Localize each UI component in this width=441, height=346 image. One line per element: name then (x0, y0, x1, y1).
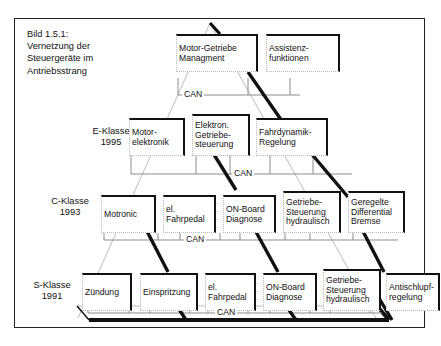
node-motorelektronik[interactable]: Motor- elektronik (129, 118, 185, 156)
connector-1 (248, 72, 284, 124)
node-elektron-getriebesteuerung[interactable]: Elektron. Getriebe- steuerung (192, 114, 250, 156)
node-motor-getriebe-managment[interactable]: Motor-Getriebe Managment (176, 34, 258, 72)
node-label: Fahrdynamik- Regelung (257, 128, 326, 147)
node-label: Einspritzung (141, 288, 196, 298)
node-getriebesteuerung-hydraulisch-c[interactable]: Getriebe- Steuerung hydraulisch (283, 191, 341, 233)
node-einspritzung[interactable]: Einspritzung (140, 273, 198, 311)
node-label: Antischlupf- regelung (387, 283, 438, 302)
node-label: Motronic (102, 210, 154, 220)
node-label: Getriebe- Steuerung hydraulisch (324, 276, 379, 305)
node-assistenzfunktionen[interactable]: Assistenz- funktionen (266, 34, 340, 72)
figure-caption: Bild 1.5.1: Vernetzung der Steuergeräte … (27, 28, 147, 77)
row-label-c-klasse: C-Klasse 1993 (42, 196, 98, 219)
row-label-s-klasse: S-Klasse 1991 (24, 280, 80, 303)
node-zuendung[interactable]: Zündung (82, 273, 132, 311)
node-geregelte-differential-bremse[interactable]: Geregelte Differential Bremse (348, 191, 405, 233)
node-getriebesteuerung-hydraulisch-s[interactable]: Getriebe- Steuerung hydraulisch (323, 269, 381, 311)
node-label: Elektron. Getriebe- steuerung (193, 121, 248, 150)
node-on-board-diagnose-c[interactable]: ON-Board Diagnose (223, 195, 276, 233)
node-label: Motor-Getriebe Managment (177, 44, 256, 63)
node-label: el. Fahrpedal (164, 205, 214, 224)
node-label: el. Fahrpedal (206, 283, 254, 302)
node-label: Motor- elektronik (130, 128, 183, 147)
figure-page: Bild 1.5.1: Vernetzung der Steuergeräte … (0, 0, 441, 346)
can-label-level-1: CAN (182, 89, 204, 99)
node-label: Getriebe- Steuerung hydraulisch (284, 198, 339, 227)
node-fahrdynamik-regelung[interactable]: Fahrdynamik- Regelung (256, 118, 328, 156)
can-label-level-2: CAN (232, 168, 254, 178)
node-el-fahrpedal-c[interactable]: el. Fahrpedal (163, 195, 216, 233)
node-label: Zündung (83, 288, 130, 298)
node-label: ON-Board Diagnose (264, 283, 315, 302)
node-label: Geregelte Differential Bremse (349, 198, 403, 227)
node-label: Assistenz- funktionen (267, 44, 338, 63)
node-motronic[interactable]: Motronic (101, 195, 156, 233)
node-on-board-diagnose-s[interactable]: ON-Board Diagnose (263, 273, 317, 311)
can-label-level-3: CAN (184, 234, 206, 244)
node-antischlupfregelung[interactable]: Antischlupf- regelung (386, 273, 440, 311)
node-label: ON-Board Diagnose (224, 205, 274, 224)
node-el-fahrpedal-s[interactable]: el. Fahrpedal (205, 273, 256, 311)
can-label-level-4: CAN (215, 307, 237, 317)
